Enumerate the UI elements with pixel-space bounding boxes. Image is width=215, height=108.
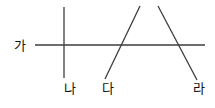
line-label-ra: 라 — [193, 82, 205, 95]
line-label-na: 나 — [64, 82, 76, 95]
diagram-canvas: 가 나 다 라 — [0, 0, 215, 108]
line-label-ga: 가 — [14, 39, 26, 52]
line-ra — [158, 6, 197, 80]
line-da — [105, 6, 140, 79]
line-label-da: 다 — [102, 82, 114, 95]
